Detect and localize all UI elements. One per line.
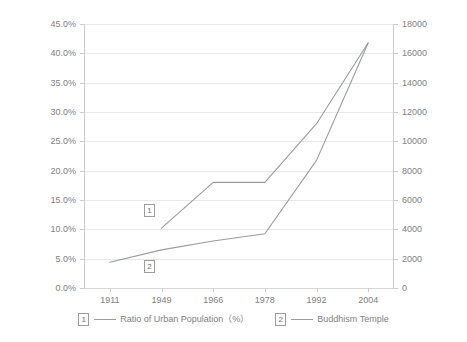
chart-legend: 1 Ratio of Urban Population（%） 2 Buddhis…: [0, 313, 467, 326]
right-axis-tick: [394, 141, 398, 142]
left-axis-tick-label: 30.0%: [50, 108, 76, 117]
right-axis-tick-label: 14000: [402, 79, 427, 88]
x-axis-tick: [317, 288, 318, 292]
chart-container: 1 2 0.0%5.0%10.0%15.0%20.0%25.0%30.0%35.…: [0, 0, 467, 342]
x-axis-tick: [265, 288, 266, 292]
right-axis-tick: [394, 24, 398, 25]
right-axis-tick-label: 12000: [402, 108, 427, 117]
legend-label-1: Ratio of Urban Population（%）: [120, 314, 249, 325]
x-axis-tick: [213, 288, 214, 292]
right-axis-tick-label: 2000: [402, 255, 422, 264]
right-axis-tick: [394, 288, 398, 289]
x-axis-tick-label: 1992: [306, 296, 326, 305]
left-axis-tick-label: 5.0%: [55, 255, 76, 264]
right-axis-tick: [394, 229, 398, 230]
series-lines: [84, 24, 394, 288]
right-axis-tick-label: 8000: [402, 167, 422, 176]
right-axis-tick-label: 18000: [402, 20, 427, 29]
x-axis-tick-label: 2004: [358, 296, 378, 305]
left-axis-tick-label: 45.0%: [50, 20, 76, 29]
series-tag-2: 2: [144, 260, 155, 273]
series-line-ratio-of-urban-population: [162, 43, 369, 228]
legend-key-icon-1: 1: [78, 313, 89, 326]
x-axis-tick-label: 1911: [100, 296, 119, 305]
legend-entry-ratio-of-urban-population[interactable]: 1 Ratio of Urban Population（%）: [78, 313, 249, 326]
right-axis-tick: [394, 112, 398, 113]
right-axis-tick-label: 16000: [402, 49, 427, 58]
x-axis-tick-label: 1978: [255, 296, 275, 305]
series-tag-1: 1: [144, 204, 155, 217]
right-axis-tick-label: 6000: [402, 196, 422, 205]
legend-line-swatch-1: [94, 319, 116, 320]
left-axis-tick-label: 20.0%: [50, 167, 76, 176]
legend-line-swatch-2: [291, 319, 313, 320]
x-axis-tick: [110, 288, 111, 292]
legend-entry-buddhism-temple[interactable]: 2 Buddhism Temple: [275, 313, 388, 326]
right-axis-tick: [394, 200, 398, 201]
series-line-buddhism-temple: [110, 43, 368, 262]
right-axis-tick: [394, 171, 398, 172]
right-axis-tick: [394, 83, 398, 84]
right-axis-tick: [394, 53, 398, 54]
legend-key-icon-2: 2: [275, 313, 286, 326]
right-axis-tick-label: 10000: [402, 137, 427, 146]
left-axis-tick-label: 25.0%: [50, 137, 76, 146]
left-axis-tick-label: 35.0%: [50, 79, 76, 88]
left-axis-tick: [80, 288, 84, 289]
x-axis-tick: [162, 288, 163, 292]
left-axis-tick-label: 15.0%: [50, 196, 76, 205]
left-axis-tick-label: 0.0%: [55, 284, 76, 293]
x-axis-tick-label: 1949: [151, 296, 171, 305]
right-axis-tick: [394, 259, 398, 260]
right-axis-tick-label: 0: [402, 284, 407, 293]
left-axis-tick-label: 40.0%: [50, 49, 76, 58]
x-axis-tick: [368, 288, 369, 292]
gridline: [84, 288, 394, 289]
legend-label-2: Buddhism Temple: [317, 314, 388, 325]
left-axis-tick-label: 10.0%: [50, 225, 76, 234]
right-axis-tick-label: 4000: [402, 225, 422, 234]
plot-area: 1 2 0.0%5.0%10.0%15.0%20.0%25.0%30.0%35.…: [84, 24, 394, 288]
x-axis-tick-label: 1966: [203, 296, 223, 305]
